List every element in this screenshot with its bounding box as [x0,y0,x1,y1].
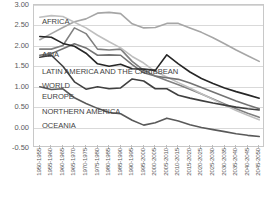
y-axis: 3.002.502.001.501.000.500.00-0.50 [0,0,31,197]
x-axis-tick-label: 1970-1975 [82,148,88,176]
series-label: AFRICA [42,17,70,26]
y-axis-tick-label: 0.50 [14,102,29,111]
y-axis-tick-label: 0.00 [14,122,29,131]
x-axis-tick-label: 2035-2040 [232,148,238,176]
x-axis-tick-label: 2025-2030 [209,148,215,176]
series-line [40,12,259,61]
series-label: OCEANIA [42,121,76,130]
y-axis-tick-label: 2.00 [14,40,29,49]
x-axis: 1950-19551955-19601960-19651965-19701970… [33,148,264,197]
series-label: LATIN AMERICA AND THE CARIBBEAN [42,67,178,76]
x-axis-tick-label: 1995-2000 [140,148,146,176]
x-axis-tick-label: 1990-1995 [128,148,134,176]
series-label: ASIA [42,50,59,59]
x-axis-tick-label: 2020-2025 [197,148,203,176]
y-axis-tick-label: 1.50 [14,61,29,70]
x-axis-tick-label: 1965-1970 [70,148,76,176]
x-axis-tick-label: 1960-1965 [59,148,65,176]
series-label: WORLD [42,81,70,90]
x-axis-tick-label: 2045-2050 [255,148,261,176]
y-axis-tick-label: 2.50 [14,20,29,29]
line-chart: 3.002.502.001.501.000.500.00-0.50 AFRICA… [0,0,267,197]
x-axis-tick-label: 1980-1985 [105,148,111,176]
x-axis-tick-label: 2010-2015 [174,148,180,176]
x-axis-tick-label: 2005-2010 [163,148,169,176]
series-line [40,55,259,110]
y-axis-tick-label: 1.00 [14,81,29,90]
x-axis-tick-label: 2030-2035 [221,148,227,176]
x-axis-tick-label: 1975-1980 [94,148,100,176]
series-label: EUROPE [42,92,74,101]
series-label: NORTHERN AMERICA [42,107,120,116]
y-axis-tick-label: -0.50 [12,143,29,152]
x-axis-tick-label: 2040-2045 [244,148,250,176]
x-axis-tick-label: 2015-2020 [186,148,192,176]
x-axis-tick-label: 1950-1955 [36,148,42,176]
y-axis-tick-label: 3.00 [14,0,29,9]
plot-area: AFRICAASIALATIN AMERICA AND THE CARIBBEA… [33,4,264,147]
x-axis-tick-label: 2000-2005 [151,148,157,176]
x-axis-tick-label: 1955-1960 [47,148,53,176]
x-axis-tick-label: 1985-1990 [117,148,123,176]
